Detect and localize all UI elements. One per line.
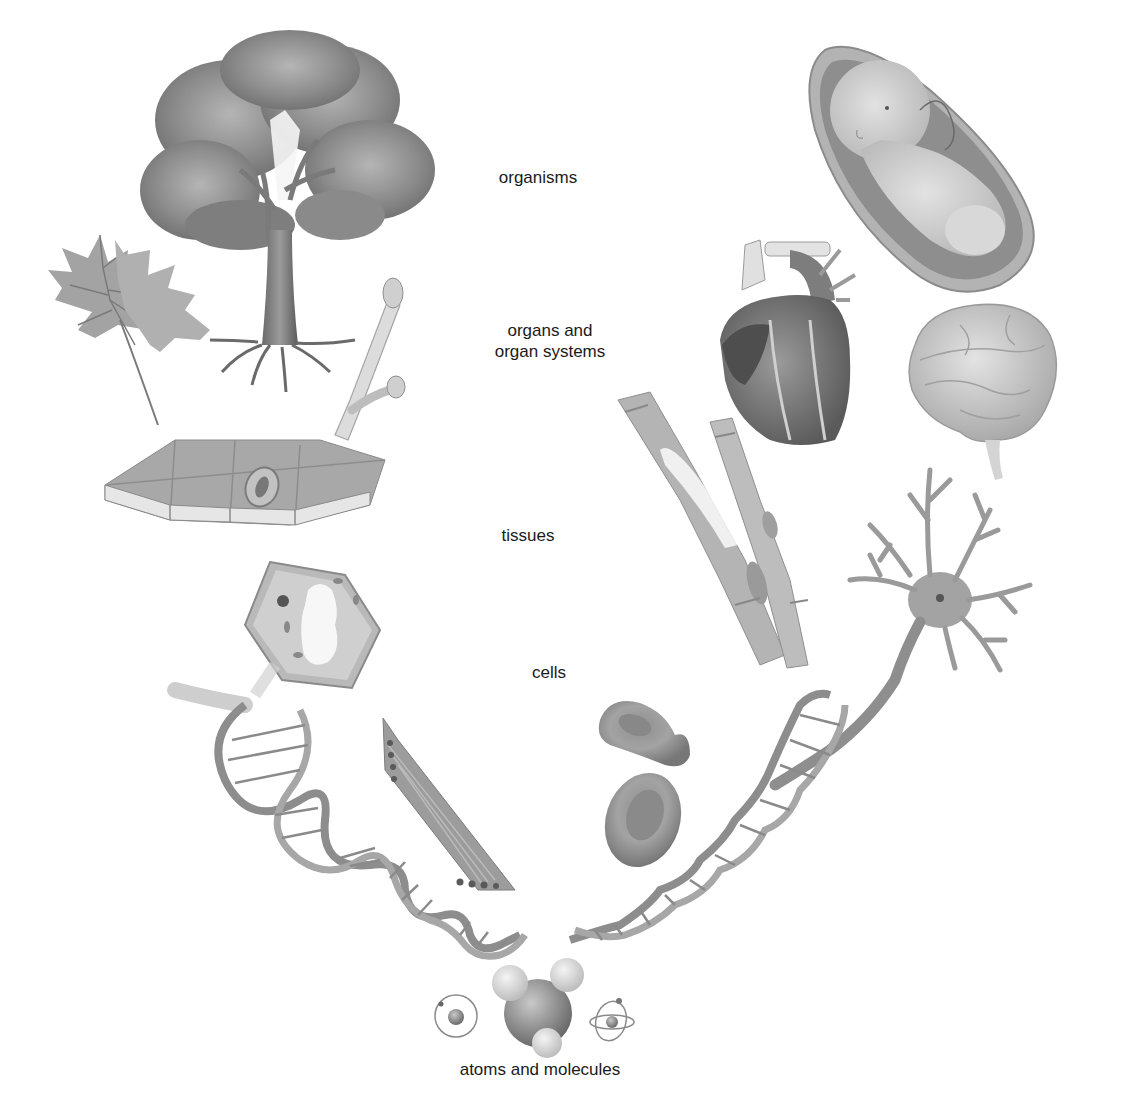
label-organisms: organisms bbox=[468, 167, 608, 188]
red-blood-cells-illustration bbox=[593, 701, 693, 877]
water-molecule-illustration bbox=[492, 958, 584, 1058]
levels-of-organization-diagram: organisms organs and organ systems tissu… bbox=[0, 0, 1126, 1103]
atom-right-illustration bbox=[590, 998, 634, 1044]
illustration-layer bbox=[0, 0, 1126, 1103]
fetus-illustration bbox=[809, 47, 1033, 292]
label-organisms-text: organisms bbox=[468, 167, 608, 188]
brain-illustration bbox=[909, 304, 1056, 480]
label-organs-line2: organ systems bbox=[480, 341, 620, 362]
label-organs: organs and organ systems bbox=[480, 320, 620, 362]
neuron-illustration bbox=[775, 470, 1030, 785]
atom-left-illustration bbox=[435, 995, 477, 1037]
label-atoms-and-molecules: atoms and molecules bbox=[430, 1059, 650, 1080]
label-cells: cells bbox=[499, 662, 599, 683]
label-tissues: tissues bbox=[478, 525, 578, 546]
label-organs-line1: organs and bbox=[480, 320, 620, 341]
leaf-illustration bbox=[48, 235, 210, 425]
label-cells-text: cells bbox=[499, 662, 599, 683]
twig-illustration bbox=[335, 278, 405, 440]
label-tissues-text: tissues bbox=[478, 525, 578, 546]
plant-tissue-illustration bbox=[105, 440, 385, 525]
heart-illustration bbox=[720, 240, 855, 445]
dna-left-illustration bbox=[175, 665, 525, 956]
label-atoms-text: atoms and molecules bbox=[430, 1059, 650, 1080]
